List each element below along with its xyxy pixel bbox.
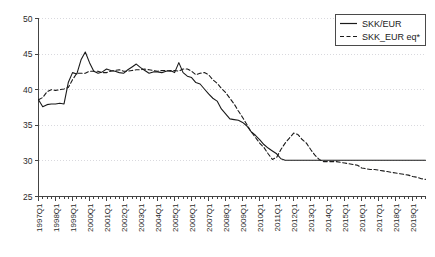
x-tick-label: 2017Q1 <box>375 203 384 232</box>
y-tick-labels: 253035404550 <box>23 14 33 202</box>
x-tick-label: 2000Q1 <box>86 203 95 232</box>
x-tick-label: 1999Q1 <box>69 203 78 232</box>
x-tick-label: 2009Q1 <box>239 203 248 232</box>
x-tick-label: 2007Q1 <box>205 203 214 232</box>
y-tick-label: 25 <box>23 192 33 202</box>
chart-legend: SKK/EURSKK_EUR eq* <box>335 14 425 45</box>
x-tick-label: 2011Q1 <box>273 203 282 231</box>
x-tick-label: 2013Q1 <box>307 203 316 232</box>
x-tick-label: 2018Q1 <box>392 203 401 232</box>
x-tick-label: 2010Q1 <box>256 203 265 232</box>
x-tick-label: 2012Q1 <box>290 203 299 232</box>
x-tick-label: 2003Q1 <box>137 203 146 232</box>
x-tick-label: 1998Q1 <box>52 203 61 232</box>
legend-label-2: SKK_EUR eq* <box>362 32 421 42</box>
x-tick-label: 2008Q1 <box>222 203 231 232</box>
x-tick-label: 2004Q1 <box>154 203 163 232</box>
x-tick-label: 2001Q1 <box>103 203 112 232</box>
y-tick-label: 30 <box>23 156 33 166</box>
y-tick-label: 35 <box>23 120 33 130</box>
y-tick-label: 50 <box>23 14 33 24</box>
series-line-1 <box>39 52 426 160</box>
y-tick-label: 40 <box>23 85 33 95</box>
x-tick-label: 2014Q1 <box>324 203 333 232</box>
y-axis <box>35 19 39 197</box>
x-tick-labels: 1997Q11998Q11999Q12000Q12001Q12002Q12003… <box>35 203 418 232</box>
x-tick-label: 2015Q1 <box>341 203 350 232</box>
x-tick-label: 2005Q1 <box>171 203 180 232</box>
x-tick-label: 2019Q1 <box>409 203 418 232</box>
x-tick-label: 1997Q1 <box>35 203 44 232</box>
x-tick-label: 2002Q1 <box>120 203 129 232</box>
exchange-rate-line-chart: 253035404550 1997Q11998Q11999Q12000Q1200… <box>0 0 435 257</box>
series-line-2 <box>39 69 426 179</box>
y-tick-label: 45 <box>23 49 33 59</box>
x-tick-label: 2006Q1 <box>188 203 197 232</box>
chart-container: 253035404550 1997Q11998Q11999Q12000Q1200… <box>0 0 435 257</box>
x-tick-label: 2016Q1 <box>358 203 367 232</box>
data-series <box>39 52 426 179</box>
x-axis <box>39 197 426 202</box>
legend-label-1: SKK/EUR <box>362 19 402 29</box>
